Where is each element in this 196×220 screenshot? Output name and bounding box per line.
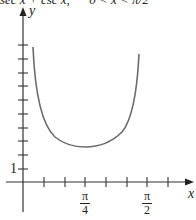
pi4-numerator: π: [82, 189, 88, 203]
y-axis-arrow-icon: [20, 7, 27, 16]
x-axis-arrow-icon: [185, 179, 194, 186]
chart-plot: [0, 0, 196, 220]
x-tick-label-pi-over-2: π 2: [140, 190, 154, 217]
pi4-denominator: 4: [82, 203, 88, 217]
curve-sec-plus-csc: [33, 47, 139, 147]
pi2-denominator: 2: [144, 203, 150, 217]
y-axis-label: y: [29, 3, 35, 19]
y-tick-label-1: 1: [10, 161, 17, 177]
pi2-numerator: π: [144, 189, 150, 203]
x-axis-label: x: [188, 186, 194, 202]
x-tick-label-pi-over-4: π 4: [78, 190, 92, 217]
